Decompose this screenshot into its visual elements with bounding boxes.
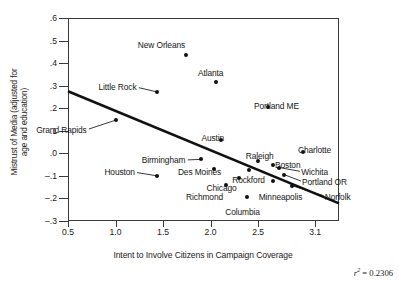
data-point [114, 118, 118, 122]
y-tick-label: .0 [17, 149, 57, 158]
plot-frame [68, 18, 339, 221]
point-label: Richmond [186, 193, 223, 201]
r-exponent: 2 [357, 266, 360, 273]
point-label: Houston [104, 168, 135, 176]
y-tick-mark [59, 63, 68, 64]
point-label: Columbia [225, 208, 260, 216]
point-label: Birmingham [142, 156, 186, 164]
y-tick-mark [59, 86, 68, 87]
y-tick-mark [59, 198, 68, 199]
x-tick-label: 2.0 [191, 228, 231, 237]
y-tick-mark [59, 108, 68, 109]
r-squared-value: = 0.2306 [362, 268, 393, 278]
x-tick-label: 0.5 [48, 228, 88, 237]
point-label: Raleigh [246, 152, 274, 160]
y-tick-label: –.2 [17, 194, 57, 203]
data-point [282, 173, 286, 177]
y-tick-mark [59, 153, 68, 154]
point-label: Charlotte [298, 146, 331, 154]
data-point [214, 80, 218, 84]
point-label: Des Moines [178, 168, 221, 176]
x-tick-label: 1.5 [143, 228, 183, 237]
point-label: Little Rock [99, 83, 137, 91]
r-squared-annotation: r2 = 0.2306 [354, 266, 393, 278]
point-label: Grand Rapids [36, 126, 86, 134]
data-point [245, 195, 249, 199]
point-label: New Orleans [138, 41, 185, 49]
point-label: Boston [275, 161, 300, 169]
point-label: Rockford [232, 176, 265, 184]
y-tick-mark [59, 41, 68, 42]
data-point [247, 168, 251, 172]
y-tick-mark [59, 176, 68, 177]
point-label: Portland ME [254, 102, 299, 110]
y-tick-label: –.3 [17, 217, 57, 226]
point-label: Atlanta [198, 69, 223, 77]
point-label: Norfolk [325, 193, 351, 201]
point-label: Austin [201, 134, 224, 142]
x-axis-label: Intent to Involve Citizens in Campaign C… [68, 250, 338, 260]
x-tick-label: 2.5 [238, 228, 278, 237]
y-tick-label: –.1 [17, 172, 57, 181]
y-tick-label: .5 [17, 37, 57, 46]
y-axis-label: Mistrust of Media (adjusted for age and … [10, 22, 30, 222]
scatter-plot-figure: Mistrust of Media (adjusted for age and … [0, 0, 399, 288]
y-tick-label: .4 [17, 59, 57, 68]
point-label: Wichita [301, 168, 328, 176]
y-tick-label: .6 [17, 14, 57, 23]
x-tick-label: 3.1 [295, 228, 335, 237]
y-tick-label: .2 [17, 104, 57, 113]
data-point [184, 53, 188, 57]
x-tick-label: 1.0 [96, 228, 136, 237]
y-tick-mark [59, 221, 68, 222]
point-label: Portland OR [302, 178, 347, 186]
point-label: Minneapolis [259, 193, 303, 201]
y-tick-label: .3 [17, 82, 57, 91]
y-tick-mark [59, 18, 68, 19]
